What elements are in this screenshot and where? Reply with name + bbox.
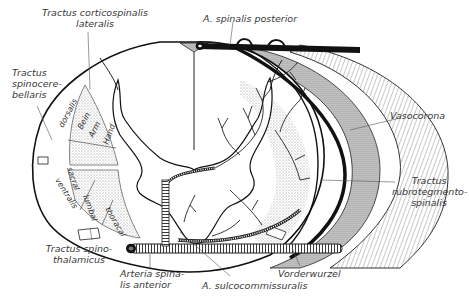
label-line-1: Tractus spino- xyxy=(44,243,114,254)
label-a-sulcocommissuralis: A. sulcocommissuralis xyxy=(202,280,307,291)
label-arteria-spinalis-anterior: Arteria spina- lis anterior xyxy=(120,268,184,290)
ventral-root-left xyxy=(78,228,100,240)
label-a-spinalis-posterior: A. spinalis posterior xyxy=(203,13,297,24)
left-root-stub xyxy=(38,157,48,164)
label-line-3: bellaris xyxy=(12,89,62,100)
label-line-1: Arteria spina- xyxy=(120,268,184,279)
label-tractus-corticospinalis-lateralis: Tractus corticospinalis lateralis xyxy=(30,7,160,29)
label-line-3: spinalis xyxy=(392,197,466,208)
a-sulcocommissuralis xyxy=(162,180,169,246)
label-line-2: lateralis xyxy=(30,18,160,29)
label-tractus-spinocerebellaris: Tractus spinocere- bellaris xyxy=(12,67,62,100)
label-line-2: spinocere- xyxy=(12,78,62,89)
label-line-2: thalamicus xyxy=(44,254,114,265)
label-line-1: Tractus corticospinalis xyxy=(30,7,160,18)
label-vasocorona: Vasocorona xyxy=(390,110,445,121)
label-vorderwurzel: Vorderwurzel xyxy=(278,268,341,279)
label-line-1: Tractus xyxy=(392,175,466,186)
label-line-2: lis anterior xyxy=(120,279,184,290)
label-line-2: rubrotegmento- xyxy=(392,186,466,197)
label-tractus-spinothalamicus: Tractus spino- thalamicus xyxy=(44,243,114,265)
label-line-1: Tractus xyxy=(12,67,62,78)
label-tractus-rubrotegmentospinalis: Tractus rubrotegmento- spinalis xyxy=(392,175,466,208)
